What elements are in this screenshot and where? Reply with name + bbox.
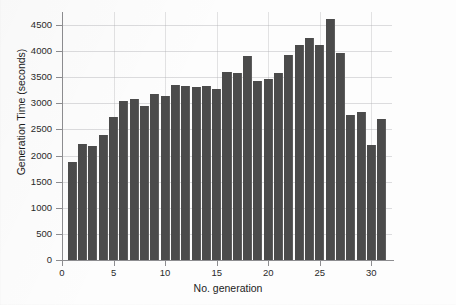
bar xyxy=(295,45,304,260)
bar xyxy=(161,96,170,260)
x-tick-mark xyxy=(114,261,115,266)
bar xyxy=(109,117,118,260)
bar xyxy=(326,19,335,260)
bar xyxy=(377,119,386,260)
x-tick-mark xyxy=(217,261,218,266)
plot-area xyxy=(62,12,392,260)
bar xyxy=(119,101,128,260)
bar-series xyxy=(62,12,392,260)
y-axis-title-container: Generation Time (seconds) xyxy=(0,0,60,305)
x-tick-label: 5 xyxy=(94,267,134,278)
x-tick-mark xyxy=(268,261,269,266)
bar xyxy=(315,45,324,260)
bar xyxy=(233,73,242,260)
bar xyxy=(130,99,139,260)
bar xyxy=(150,94,159,260)
bar xyxy=(181,86,190,260)
x-tick-mark xyxy=(320,261,321,266)
bar xyxy=(284,55,293,260)
y-axis-title: Generation Time (seconds) xyxy=(15,17,27,207)
bar xyxy=(68,162,77,260)
bar xyxy=(212,89,221,260)
x-tick-label: 20 xyxy=(248,267,288,278)
bar xyxy=(264,79,273,260)
bar xyxy=(140,106,149,260)
x-tick-label: 25 xyxy=(300,267,340,278)
bar xyxy=(202,86,211,260)
bar xyxy=(253,81,262,260)
bar xyxy=(305,38,314,260)
x-axis-title: No. generation xyxy=(62,282,394,294)
bar xyxy=(171,85,180,260)
x-tick-mark xyxy=(371,261,372,266)
y-axis-line xyxy=(62,12,63,261)
x-tick-label: 30 xyxy=(351,267,391,278)
bar xyxy=(78,144,87,260)
bar xyxy=(336,53,345,260)
x-tick-label: 15 xyxy=(197,267,237,278)
x-tick-mark xyxy=(165,261,166,266)
bar xyxy=(192,87,201,260)
bar xyxy=(357,112,366,260)
bar-chart-figure: 050010001500200025003000350040004500 051… xyxy=(0,0,456,305)
bar xyxy=(88,146,97,260)
x-tick-label: 10 xyxy=(145,267,185,278)
x-axis-line xyxy=(62,260,394,261)
bar xyxy=(274,73,283,260)
bar xyxy=(243,56,252,260)
bar xyxy=(99,135,108,260)
x-tick-mark xyxy=(62,261,63,266)
bar xyxy=(367,145,376,260)
bar xyxy=(222,72,231,260)
bar xyxy=(346,115,355,260)
